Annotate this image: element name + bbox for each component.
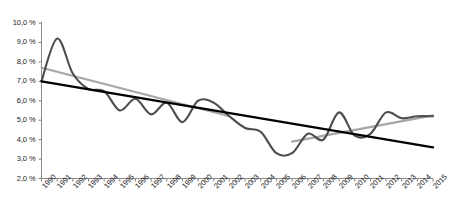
y-axis-tick-label: 6,0 % — [17, 96, 36, 105]
y-axis-tick-label: 4,0 % — [17, 135, 36, 144]
y-axis-tick-label: 8,0 % — [17, 57, 36, 66]
y-axis-tick-label: 5,0 % — [17, 115, 36, 124]
y-axis-tick-label: 10,0 % — [13, 18, 36, 27]
y-axis-tick-label: 2,0 % — [17, 174, 36, 183]
black-trend-line-path — [42, 81, 434, 147]
y-axis-tick-label: 3,0 % — [17, 154, 36, 163]
y-axis-tick-label: 9,0 % — [17, 37, 36, 46]
y-axis-tick-label: 7,0 % — [17, 76, 36, 85]
